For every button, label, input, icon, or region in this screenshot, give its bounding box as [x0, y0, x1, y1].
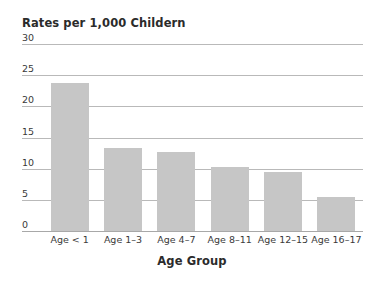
x-axis-tick-label: Age 16–17 — [304, 234, 369, 245]
bar[interactable] — [317, 197, 355, 231]
bar-slot — [104, 44, 142, 231]
bar[interactable] — [104, 148, 142, 231]
bars-group — [43, 44, 363, 231]
bar[interactable] — [157, 152, 195, 231]
bar-slot — [317, 44, 355, 231]
bar[interactable] — [264, 172, 302, 231]
bar-slot — [51, 44, 89, 231]
bar[interactable] — [211, 167, 249, 231]
bar-slot — [157, 44, 195, 231]
bar-slot — [264, 44, 302, 231]
y-axis-tick-label: 30 — [22, 32, 56, 43]
gridline — [22, 231, 363, 232]
x-axis-tick-labels: Age < 1Age 1–3Age 4–7Age 8–11Age 12–15Ag… — [43, 234, 363, 250]
x-axis-title: Age Group — [0, 254, 384, 268]
bar[interactable] — [51, 83, 89, 231]
chart-title: Rates per 1,000 Childern — [22, 16, 186, 30]
bar-chart: Rates per 1,000 Childern 051015202530 Ag… — [0, 0, 384, 287]
bar-slot — [211, 44, 249, 231]
